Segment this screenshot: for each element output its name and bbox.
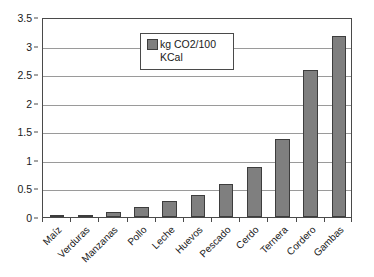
y-tick-label: 2 [26, 98, 32, 109]
y-tick-label: 0.5 [17, 184, 32, 195]
legend-label: kg CO2/100 KCal [160, 38, 216, 64]
bar-cordero [303, 70, 318, 217]
bar-ternera [275, 139, 290, 217]
y-tick-mark [34, 18, 38, 19]
legend-swatch-kg-co2 [147, 39, 158, 50]
bar-pescado [219, 184, 234, 217]
bar-chart: 00.511.522.533.5 MaízVerdurasManzanasPol… [0, 0, 374, 277]
y-tick-mark [34, 189, 38, 190]
y-tick-label: 3.5 [17, 13, 32, 24]
bar-manzanas [106, 212, 121, 217]
chart-legend: kg CO2/100 KCal [140, 33, 234, 70]
y-tick-label: 1.5 [17, 127, 32, 138]
bar-ma-z [50, 215, 65, 217]
y-tick-mark [34, 103, 38, 104]
y-axis: 00.511.522.533.5 [0, 18, 38, 218]
bar-pollo [134, 207, 149, 217]
bar-huevos [191, 195, 206, 217]
y-tick-label: 2.5 [17, 70, 32, 81]
y-tick-mark [34, 75, 38, 76]
y-tick-mark [34, 160, 38, 161]
y-tick-mark [34, 132, 38, 133]
bar-verduras [78, 215, 93, 217]
y-tick-label: 3 [26, 41, 32, 52]
y-tick-label: 1 [26, 155, 32, 166]
x-axis-labels: MaízVerdurasManzanasPolloLecheHuevosPesc… [0, 218, 374, 277]
bar-cerdo [247, 167, 262, 217]
y-tick-mark [34, 46, 38, 47]
bar-gambas [332, 36, 347, 217]
bar-leche [162, 201, 177, 217]
